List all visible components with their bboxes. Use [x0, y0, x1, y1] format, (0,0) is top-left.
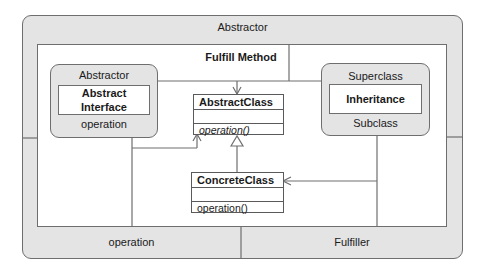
- outer-operation-label: operation: [22, 236, 241, 248]
- fulfiller-label: Fulfiller: [241, 236, 463, 248]
- concrete-class-operation: operation(): [192, 202, 283, 215]
- subclass-label: Subclass: [321, 117, 430, 129]
- concrete-class-attributes: [192, 188, 283, 202]
- abstract-class-name: AbstractClass: [194, 95, 283, 110]
- abstract-interface-line2: Interface: [58, 101, 150, 113]
- abstractor-module-label: Abstractor: [50, 69, 158, 81]
- concrete-class-box: ConcreteClass operation(): [191, 172, 284, 213]
- abstractor-module-operation: operation: [50, 118, 158, 130]
- abstract-class-box: AbstractClass operation(): [193, 94, 284, 135]
- concrete-class-name: ConcreteClass: [192, 173, 283, 188]
- abstract-class-operation: operation(): [194, 124, 283, 137]
- abstract-class-attributes: [194, 110, 283, 124]
- inheritance-label: Inheritance: [329, 93, 422, 105]
- superclass-label: Superclass: [321, 70, 430, 82]
- abstract-interface-line1: Abstract: [58, 87, 150, 99]
